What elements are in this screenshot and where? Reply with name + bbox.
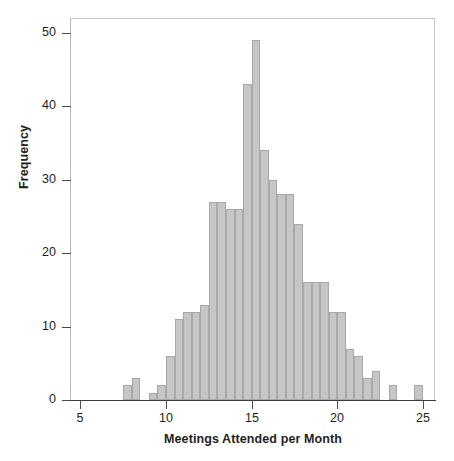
- histogram-bar: [209, 202, 218, 400]
- histogram-bar: [303, 282, 312, 400]
- histogram-bar: [346, 349, 355, 400]
- histogram-bar: [354, 356, 363, 400]
- y-tick-label-40: 40: [26, 98, 56, 112]
- y-tick-label-30: 30: [26, 172, 56, 186]
- histogram-bar: [269, 180, 278, 400]
- histogram-bar: [217, 202, 226, 400]
- x-tick-25: [423, 400, 424, 409]
- x-tick-label-25: 25: [408, 411, 438, 425]
- histogram-bar: [389, 385, 398, 400]
- histogram-bar: [123, 385, 132, 400]
- histogram-bars: [70, 18, 435, 400]
- x-tick-label-20: 20: [322, 411, 352, 425]
- histogram-bar: [192, 312, 201, 400]
- x-axis-title: Meetings Attended per Month: [70, 432, 436, 446]
- histogram-bar: [226, 209, 235, 400]
- y-tick-label-50: 50: [26, 25, 56, 39]
- histogram-bar: [183, 312, 192, 400]
- histogram-bar: [286, 194, 295, 400]
- x-tick-20: [337, 400, 338, 409]
- histogram-bar: [277, 194, 286, 400]
- histogram-bar: [252, 40, 261, 400]
- histogram-bar: [149, 393, 158, 400]
- histogram-bar: [157, 385, 166, 400]
- x-tick-5: [80, 400, 81, 409]
- histogram-bar: [320, 282, 329, 400]
- histogram-bar: [329, 312, 338, 400]
- x-tick-label-10: 10: [151, 411, 181, 425]
- x-axis-line: [62, 400, 436, 401]
- histogram-figure: Frequency Meetings Attended per Month 01…: [0, 0, 454, 461]
- y-axis-title: Frequency: [17, 97, 31, 217]
- y-tick-label-10: 10: [26, 319, 56, 333]
- x-tick-label-5: 5: [65, 411, 95, 425]
- histogram-bar: [294, 224, 303, 400]
- x-tick-10: [166, 400, 167, 409]
- histogram-bar: [260, 150, 269, 400]
- histogram-bar: [372, 371, 381, 400]
- histogram-bar: [312, 282, 321, 400]
- histogram-bar: [175, 319, 184, 400]
- histogram-bar: [337, 312, 346, 400]
- x-tick-label-15: 15: [237, 411, 267, 425]
- y-tick-0: [62, 400, 71, 401]
- y-tick-label-20: 20: [26, 245, 56, 259]
- histogram-bar: [363, 378, 372, 400]
- x-tick-15: [252, 400, 253, 409]
- y-tick-label-0: 0: [26, 392, 56, 406]
- histogram-bar: [132, 378, 141, 400]
- histogram-bar: [414, 385, 423, 400]
- histogram-bar: [235, 209, 244, 400]
- histogram-bar: [200, 305, 209, 401]
- histogram-bar: [243, 84, 252, 400]
- histogram-bar: [166, 356, 175, 400]
